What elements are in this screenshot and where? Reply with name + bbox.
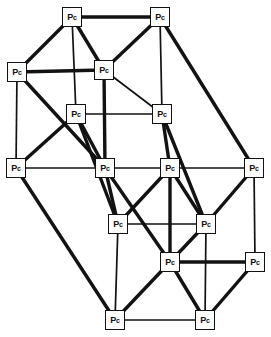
- processor-node[interactable]: Pc: [108, 214, 128, 234]
- network-edges-layer: [0, 0, 271, 337]
- network-edge: [16, 168, 115, 320]
- processor-node[interactable]: Pc: [6, 158, 26, 178]
- processor-node-label: Pc: [250, 258, 260, 267]
- processor-node-label: Pc: [200, 316, 210, 325]
- processor-node-label: Pc: [201, 220, 211, 229]
- processor-node-label: Pc: [99, 66, 109, 75]
- processor-node[interactable]: Pc: [94, 60, 114, 80]
- processor-node-label: Pc: [165, 258, 175, 267]
- processor-node[interactable]: Pc: [245, 252, 265, 272]
- processor-node-label: Pc: [110, 316, 120, 325]
- processor-node[interactable]: Pc: [150, 7, 170, 27]
- network-edge: [17, 70, 104, 72]
- network-edge: [104, 70, 105, 168]
- network-edge: [16, 72, 17, 168]
- processor-node-label: Pc: [155, 13, 165, 22]
- processor-node[interactable]: Pc: [160, 158, 180, 178]
- processor-node-label: Pc: [67, 13, 77, 22]
- processor-node[interactable]: Pc: [196, 214, 216, 234]
- processor-node[interactable]: Pc: [160, 252, 180, 272]
- processor-node-label: Pc: [11, 164, 21, 173]
- network-edge: [254, 168, 255, 262]
- processor-node[interactable]: Pc: [7, 62, 27, 82]
- processor-node-label: Pc: [71, 110, 81, 119]
- network-edge: [72, 17, 76, 114]
- processor-node[interactable]: Pc: [66, 104, 86, 124]
- processor-node[interactable]: Pc: [195, 310, 215, 330]
- processor-node-label: Pc: [100, 164, 110, 173]
- network-edge: [205, 224, 206, 320]
- processor-node-label: Pc: [12, 68, 22, 77]
- hypercube-diagram: PcPcPcPcPcPcPcPcPcPcPcPcPcPcPcPc: [0, 0, 271, 337]
- processor-node-label: Pc: [249, 164, 259, 173]
- processor-node-label: Pc: [165, 164, 175, 173]
- network-edge: [115, 224, 118, 320]
- processor-node[interactable]: Pc: [244, 158, 264, 178]
- network-edge: [160, 17, 162, 114]
- processor-node[interactable]: Pc: [152, 104, 172, 124]
- processor-node[interactable]: Pc: [95, 158, 115, 178]
- processor-node-label: Pc: [157, 110, 167, 119]
- processor-node-label: Pc: [113, 220, 123, 229]
- processor-node[interactable]: Pc: [62, 7, 82, 27]
- processor-node[interactable]: Pc: [105, 310, 125, 330]
